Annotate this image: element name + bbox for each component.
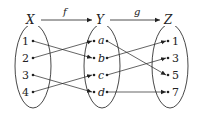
y-element-b: b xyxy=(98,52,105,65)
function-g-label: g xyxy=(134,6,140,17)
function-composition-diagram: X Y Z f g 1 2 3 4 a b c d 1 3 5 7 xyxy=(0,0,204,115)
x-element-3: 3 xyxy=(22,69,29,82)
f-mapping-arrows xyxy=(33,41,92,92)
set-z-label: Z xyxy=(163,13,173,27)
y-element-c: c xyxy=(98,69,104,82)
z-element-7: 7 xyxy=(172,86,179,99)
g-mapping-arrows xyxy=(107,41,166,92)
function-f-label: f xyxy=(62,6,69,17)
z-element-5: 5 xyxy=(172,69,179,82)
set-z-ellipse xyxy=(152,24,188,108)
z-element-3: 3 xyxy=(172,52,179,65)
set-x-label: X xyxy=(25,13,35,27)
x-element-4: 4 xyxy=(22,86,29,99)
x-element-2: 2 xyxy=(22,52,29,65)
set-x-ellipse xyxy=(15,24,51,108)
z-element-1: 1 xyxy=(172,35,179,48)
y-element-d: d xyxy=(98,86,105,99)
x-element-1: 1 xyxy=(22,35,29,48)
set-y-label: Y xyxy=(96,13,105,27)
y-element-a: a xyxy=(98,34,105,47)
